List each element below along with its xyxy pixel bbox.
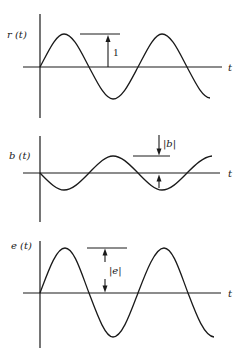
b-arrowhead-up-icon xyxy=(157,175,162,182)
r-x-label: t xyxy=(228,62,233,73)
b-arrowhead-down-icon xyxy=(157,149,162,156)
e-arrowhead-down-icon xyxy=(103,286,108,293)
e-x-label: t xyxy=(228,288,233,299)
e-y-label: e (t) xyxy=(11,240,32,251)
e-arrowhead-up-icon xyxy=(103,249,108,256)
r-amplitude-label: 1 xyxy=(113,46,119,58)
b-x-label: t xyxy=(228,168,233,179)
panel-r: r (t) t 1 xyxy=(7,14,233,118)
r-arrowhead-up-icon xyxy=(106,35,111,42)
r-y-label: r (t) xyxy=(7,29,27,40)
waveform-diagram: r (t) t 1 b (t) t |b| e (t) t |e| xyxy=(0,0,247,359)
panel-b: b (t) t |b| xyxy=(9,135,233,222)
e-amplitude-label: |e| xyxy=(109,265,122,277)
b-y-label: b (t) xyxy=(9,150,31,161)
b-amplitude-label: |b| xyxy=(163,138,176,150)
panel-e: e (t) t |e| xyxy=(11,240,233,348)
